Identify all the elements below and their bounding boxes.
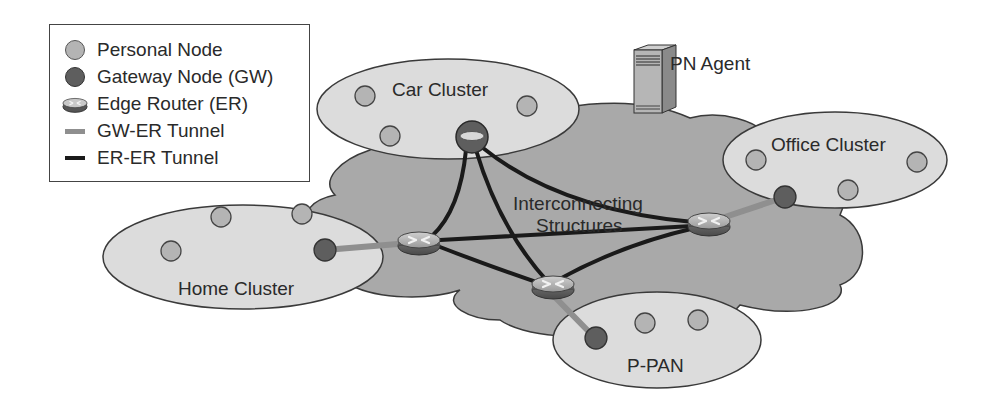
edge-router-home [398,232,440,255]
gateway-node [585,327,607,349]
pn-agent-label: PN Agent [670,53,751,74]
core-label-line1: Interconnecting [513,193,643,214]
gateway-node [314,239,336,261]
edge-router-office [688,213,730,236]
personal-node [688,310,708,330]
legend: Personal Node Gateway Node (GW) Edge Rou… [49,24,310,182]
personal-node [355,86,375,106]
personal-node [161,241,181,261]
office-cluster-label: Office Cluster [771,134,886,155]
legend-label: Personal Node [97,39,223,61]
gateway-node [774,186,796,208]
er-er-tunnel-icon [62,147,88,169]
personal-node [380,126,400,146]
legend-item-gateway-node: Gateway Node (GW) [62,64,273,90]
legend-label: Gateway Node (GW) [97,66,273,88]
legend-item-er-er-tunnel: ER-ER Tunnel [62,145,218,171]
legend-label: Edge Router (ER) [97,93,248,115]
ppan-label: P-PAN [627,355,684,376]
gw-er-tunnel-icon [62,120,88,142]
legend-label: ER-ER Tunnel [97,147,218,169]
car-cluster-label: Car Cluster [392,79,489,100]
edge-router-ppan [532,276,574,299]
core-label-line2: Structures [536,215,623,236]
car-gateway-router [456,121,488,153]
gateway-node-icon [62,66,88,88]
legend-item-personal-node: Personal Node [62,37,223,63]
car-cluster [317,59,579,159]
home-cluster-label: Home Cluster [178,278,295,299]
personal-node [635,313,655,333]
personal-node [838,180,858,200]
legend-item-edge-router: Edge Router (ER) [62,91,248,117]
edge-router-icon [62,93,88,115]
personal-node [517,96,537,116]
personal-node [907,152,927,172]
personal-node [211,207,231,227]
personal-node [746,150,766,170]
personal-node-icon [62,39,88,61]
legend-label: GW-ER Tunnel [97,120,224,142]
personal-node [292,204,312,224]
legend-item-gw-er-tunnel: GW-ER Tunnel [62,118,224,144]
